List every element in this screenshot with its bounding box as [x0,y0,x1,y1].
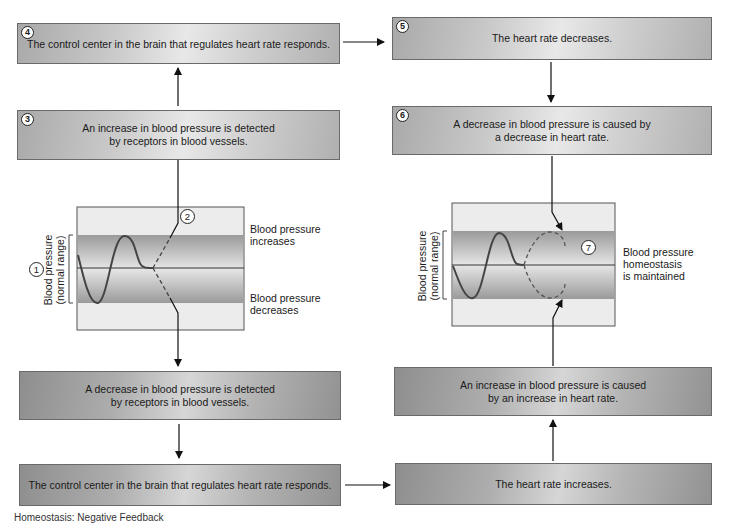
step-number-2: 2 [180,209,195,224]
left-y-axis-label: Blood pressure (normal range) [42,230,68,310]
step6-box: 6 A decrease in blood pressure is caused… [392,106,712,155]
step5-box: 5 The heart rate decreases. [392,17,712,60]
heart-rate-increases-box: The heart rate increases. [395,463,712,505]
left-graph [69,146,244,366]
step4-text: The control center in the brain that reg… [27,38,330,51]
heart-rate-increases-text: The heart rate increases. [495,478,612,491]
step5-text: The heart rate decreases. [492,32,612,45]
decrease-detected-box: A decrease in blood pressure is detected… [19,371,341,420]
step-number-6: 6 [396,109,409,122]
label-bp-homeostasis: Blood pressure homeostasis is maintained [623,246,694,282]
right-y-axis-label: Blood pressure (normal range) [416,226,442,306]
right-graph [443,156,615,366]
control-center-bottom-text: The control center in the brain that reg… [29,479,332,492]
figure-caption: Homeostasis: Negative Feedback [14,512,164,523]
label-bp-increases: Blood pressure increases [250,223,321,247]
control-center-bottom-box: The control center in the brain that reg… [19,464,341,506]
step6-text: A decrease in blood pressure is caused b… [453,118,650,144]
step4-box: 4 The control center in the brain that r… [17,23,340,64]
increase-caused-box: An increase in blood pressure is caused … [394,367,712,416]
step-number-5: 5 [396,20,409,33]
increase-caused-text: An increase in blood pressure is caused … [460,379,646,405]
label-bp-decreases: Blood pressure decreases [250,292,321,316]
step-number-3: 3 [21,113,34,126]
step3-box: 3 An increase in blood pressure is detec… [17,110,340,160]
step-number-4: 4 [21,26,34,39]
step-number-7: 7 [581,240,596,255]
decrease-detected-text: A decrease in blood pressure is detected… [85,383,275,409]
step3-text: An increase in blood pressure is detecte… [82,122,275,148]
